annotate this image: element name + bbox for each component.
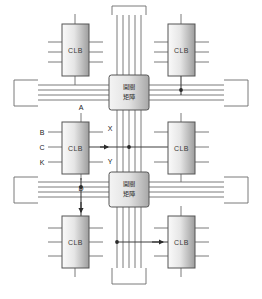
switch-matrix-top-label-line1: 開關 xyxy=(123,83,135,91)
fpga-architecture-diagram: CLB CLB 開關 矩陣 開關 矩陣 xyxy=(0,0,262,299)
pin-label-x: X xyxy=(108,125,113,132)
switch-matrix-bottom[interactable]: 開關 矩陣 xyxy=(109,172,149,207)
switch-matrix-top[interactable]: 開關 矩陣 xyxy=(109,75,149,110)
pin-label-c: C xyxy=(39,144,44,151)
pin-label-b: B xyxy=(40,129,45,136)
clb-center-right-label: CLB xyxy=(174,145,189,152)
junction-dot-d xyxy=(79,185,83,189)
pin-label-y: Y xyxy=(108,158,113,165)
pin-label-k: K xyxy=(40,159,45,166)
clb-top-left-label: CLB xyxy=(68,47,83,54)
clb-top-right-label: CLB xyxy=(174,47,189,54)
junction-dot-x xyxy=(127,145,131,149)
switch-matrix-top-label-line2: 矩陣 xyxy=(123,93,135,101)
pin-label-a: A xyxy=(79,104,84,111)
switch-matrix-bottom-label-line2: 矩陣 xyxy=(123,190,135,198)
junction-dot-top-right xyxy=(179,88,183,92)
clb-bottom-right-label: CLB xyxy=(174,239,189,246)
clb-center-left-label: CLB xyxy=(68,145,83,152)
clb-bottom-left-label: CLB xyxy=(68,239,83,246)
switch-matrix-bottom-label-line1: 開關 xyxy=(123,180,135,188)
junction-dot-bottom xyxy=(115,240,119,244)
